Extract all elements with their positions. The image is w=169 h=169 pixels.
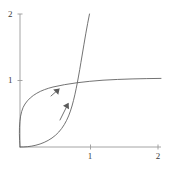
direction-arrows-group [51, 89, 69, 120]
y-tick-label-2: 2 [8, 10, 13, 19]
axes-group [20, 14, 161, 147]
plot-canvas [0, 0, 169, 169]
x-tick-label-1: 1 [88, 152, 93, 161]
curves-group [19, 14, 161, 147]
loop-lower-branch-curve [20, 14, 90, 147]
y-tick-label-1: 1 [8, 76, 13, 85]
arrow-upper-branch [51, 89, 60, 96]
x-tick-label-2: 2 [156, 152, 161, 161]
loop-upper-branch-curve [19, 78, 161, 147]
plot-figure: 1 2 1 2 [0, 0, 169, 169]
